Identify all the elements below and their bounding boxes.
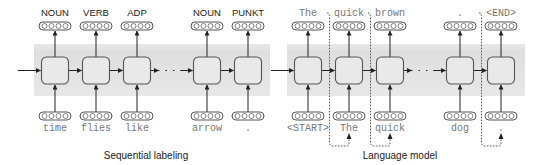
vector-unit: [131, 114, 136, 119]
output-label: brown: [375, 8, 405, 19]
rnn-diagram: NOUNtimeVERBfliesADPlikeNOUNarrowPUNKT. …: [0, 0, 544, 165]
vector-unit: [242, 114, 247, 119]
vector-unit: [316, 114, 321, 119]
vector-unit: [461, 24, 466, 29]
vector-unit: [242, 24, 247, 29]
output-label: VERB: [83, 7, 109, 18]
vector-unit: [194, 24, 199, 29]
sequential-labeling-panel: NOUNtimeVERBfliesADPlikeNOUNarrowPUNKT.: [18, 7, 270, 134]
input-embedding: [485, 112, 517, 120]
vector-unit: [249, 24, 254, 29]
rnn-cell-group: .dog: [444, 8, 487, 134]
vector-unit: [336, 114, 341, 119]
vector-unit: [215, 114, 220, 119]
vector-unit: [447, 24, 452, 29]
vector-unit: [343, 24, 348, 29]
vector-unit: [454, 24, 459, 29]
vector-unit: [350, 24, 355, 29]
vector-unit: [104, 24, 109, 29]
vector-unit: [295, 24, 300, 29]
output-label: ADP: [127, 7, 147, 18]
vector-unit: [350, 114, 355, 119]
output-embedding: [121, 22, 153, 30]
output-embedding: [333, 22, 365, 30]
vector-unit: [302, 24, 307, 29]
vector-unit: [343, 114, 348, 119]
vector-unit: [316, 24, 321, 29]
input-word: like: [125, 123, 149, 134]
vector-unit: [509, 24, 514, 29]
vector-unit: [235, 24, 240, 29]
vector-unit: [377, 114, 382, 119]
vector-unit: [391, 114, 396, 119]
input-word: time: [43, 123, 67, 134]
input-word: quick: [375, 123, 405, 134]
input-embedding: [191, 112, 223, 120]
output-embedding: [485, 22, 517, 30]
vector-unit: [56, 24, 61, 29]
rnn-cell: [336, 57, 363, 84]
vector-unit: [131, 24, 136, 29]
rnn-cell: [83, 57, 110, 84]
vector-unit: [377, 24, 382, 29]
vector-unit: [495, 114, 500, 119]
rnn-cell-group: quickThe: [333, 8, 376, 134]
rnn-cell-group: VERBflies: [80, 7, 123, 134]
vector-unit: [391, 24, 396, 29]
output-embedding: [374, 22, 406, 30]
input-word: .: [498, 123, 504, 134]
vector-unit: [104, 114, 109, 119]
vector-unit: [384, 114, 389, 119]
vector-unit: [42, 114, 47, 119]
rnn-cell: [235, 57, 262, 84]
vector-unit: [502, 24, 507, 29]
output-label: The: [299, 8, 317, 19]
vector-unit: [194, 114, 199, 119]
vector-unit: [468, 24, 473, 29]
output-label: NOUN: [193, 7, 221, 18]
output-embedding: [80, 22, 112, 30]
vector-unit: [488, 24, 493, 29]
vector-unit: [295, 114, 300, 119]
vector-unit: [235, 114, 240, 119]
vector-unit: [256, 114, 261, 119]
vector-unit: [502, 114, 507, 119]
output-embedding: [232, 22, 264, 30]
vector-unit: [63, 114, 68, 119]
vector-unit: [256, 24, 261, 29]
vector-unit: [309, 24, 314, 29]
vector-unit: [215, 24, 220, 29]
vector-unit: [56, 114, 61, 119]
rnn-cell-group: The<START>: [287, 8, 335, 134]
caption-sequential-labeling: Sequential labeling: [104, 150, 189, 161]
rnn-cell-group: NOUNtime: [39, 7, 82, 134]
input-embedding: [292, 112, 324, 120]
vector-unit: [138, 24, 143, 29]
vector-unit: [90, 114, 95, 119]
input-embedding: [39, 112, 71, 120]
input-word: flies: [81, 123, 111, 134]
output-embedding: [39, 22, 71, 30]
vector-unit: [461, 114, 466, 119]
vector-unit: [49, 24, 54, 29]
rnn-cell: [42, 57, 69, 84]
vector-unit: [83, 114, 88, 119]
vector-unit: [124, 24, 129, 29]
rnn-cell: [488, 57, 515, 84]
input-embedding: [121, 112, 153, 120]
rnn-cell-group: ADPlike: [121, 7, 193, 134]
vector-unit: [63, 24, 68, 29]
output-label: PUNKT: [232, 7, 264, 18]
vector-unit: [83, 24, 88, 29]
rnn-cell: [377, 57, 404, 84]
vector-unit: [468, 114, 473, 119]
vector-unit: [357, 114, 362, 119]
output-label: .: [457, 8, 463, 19]
vector-unit: [384, 24, 389, 29]
vector-unit: [447, 114, 452, 119]
input-word: The: [340, 123, 358, 134]
vector-unit: [124, 114, 129, 119]
vector-unit: [201, 114, 206, 119]
vector-unit: [495, 24, 500, 29]
input-word: dog: [451, 123, 469, 134]
